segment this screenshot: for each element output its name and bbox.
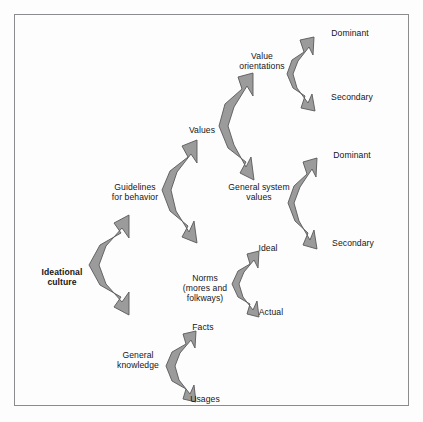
node-label-dominant-top: Dominant (331, 28, 368, 38)
connector-values-to-branches (219, 73, 254, 180)
node-label-value-orientations: Value orientations (239, 51, 284, 71)
node-label-general-system-values: General system values (228, 182, 289, 202)
connector-knowledge-to-branches (166, 331, 196, 402)
node-label-ideal: Ideal (258, 243, 277, 253)
node-label-dominant-middle: Dominant (333, 150, 370, 160)
node-label-secondary-middle: Secondary (332, 238, 374, 248)
ideational-culture-figure: Ideational culture Guidelines for behavi… (0, 0, 423, 422)
connector-ideational-to-branches (89, 215, 129, 315)
node-label-actual: Actual (259, 307, 283, 317)
node-label-general-knowledge: General knowledge (117, 350, 159, 370)
connector-norms-to-branches (232, 251, 259, 317)
connector-guidelines-to-branches (162, 140, 197, 243)
node-label-facts: Facts (192, 322, 213, 332)
node-label-guidelines-for-behavior: Guidelines for behavior (112, 182, 158, 202)
connector-orientations-to-branches (287, 37, 315, 111)
diagram-canvas (0, 0, 423, 422)
connector-system-values-to-branches (288, 158, 317, 249)
node-label-usages: Usages (190, 394, 220, 404)
node-label-secondary-top: Secondary (331, 92, 373, 102)
node-label-values: Values (189, 125, 215, 135)
node-label-norms: Norms (mores and folkways) (183, 273, 227, 304)
node-label-ideational-culture: Ideational culture (42, 267, 83, 287)
